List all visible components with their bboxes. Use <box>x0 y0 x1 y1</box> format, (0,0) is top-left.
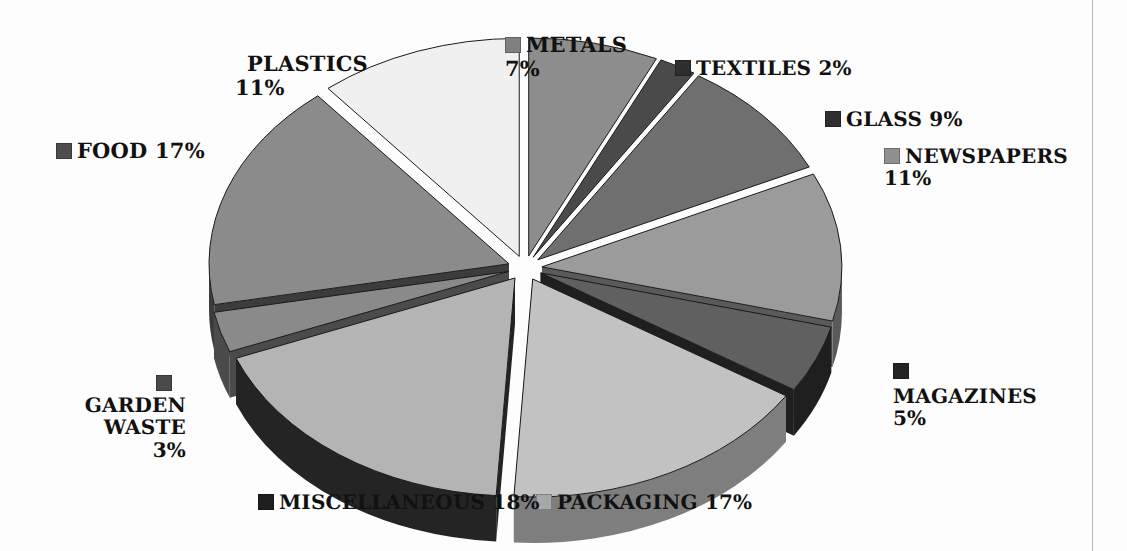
metals-swatch-icon <box>505 37 521 53</box>
slice-label-packaging-text: PACKAGING <box>557 490 698 514</box>
slice-label-magazines-percent: 5% <box>893 407 1037 429</box>
garden-waste-swatch-icon <box>156 375 172 391</box>
slice-label-miscellaneous-text: MISCELLANEOUS <box>279 490 485 514</box>
slice-label-garden-waste-line2: WASTE <box>104 415 186 439</box>
slice-label-glass: GLASS 9% <box>825 108 963 130</box>
slice-label-textiles-text: TEXTILES <box>696 56 811 80</box>
slice-label-metals-text: METALS <box>526 32 627 57</box>
slice-label-packaging-percent: 17% <box>705 490 752 514</box>
slice-label-miscellaneous: MISCELLANEOUS 18% <box>258 491 540 513</box>
slice-label-food-percent: 17% <box>155 138 205 163</box>
slice-label-garden-waste: GARDEN WASTE 3% <box>36 375 186 461</box>
slice-label-garden-waste-percent: 3% <box>153 438 186 462</box>
slice-label-magazines-text: MAGAZINES <box>893 384 1037 408</box>
slice-label-packaging: PACKAGING 17% <box>536 491 752 513</box>
slice-label-food-text: FOOD <box>77 138 148 163</box>
slice-label-food: FOOD 17% <box>56 139 205 163</box>
glass-swatch-icon <box>825 111 841 127</box>
slice-label-magazines: MAGAZINES 5% <box>893 363 1037 430</box>
page-edge-rule <box>1092 0 1093 551</box>
slice-label-garden-waste-line1: GARDEN <box>85 393 186 417</box>
slice-label-metals-percent: 7% <box>505 57 627 81</box>
slice-label-textiles: TEXTILES 2% <box>675 57 852 79</box>
slice-label-plastics: PLASTICS 11% <box>247 52 368 99</box>
magazines-swatch-icon <box>893 363 909 379</box>
slice-label-glass-text: GLASS <box>846 107 922 131</box>
textiles-swatch-icon <box>675 60 691 76</box>
food-swatch-icon <box>56 143 72 159</box>
miscellaneous-swatch-icon <box>258 494 274 510</box>
slice-label-glass-percent: 9% <box>929 107 962 131</box>
slice-label-plastics-percent: 11% <box>235 76 368 100</box>
slice-label-newspapers-text: NEWSPAPERS <box>905 144 1068 168</box>
slice-label-metals: METALS 7% <box>505 33 627 80</box>
pie-chart <box>0 0 1127 551</box>
slice-label-plastics-text: PLASTICS <box>247 51 368 76</box>
newspapers-swatch-icon <box>884 148 900 164</box>
slice-label-newspapers-percent: 11% <box>884 167 1068 189</box>
slice-label-miscellaneous-percent: 18% <box>492 490 539 514</box>
slice-label-newspapers: NEWSPAPERS 11% <box>884 145 1068 190</box>
slice-label-textiles-percent: 2% <box>818 56 851 80</box>
chart-canvas: PLASTICS 11% METALS 7% TEXTILES 2% GLASS… <box>0 0 1127 551</box>
